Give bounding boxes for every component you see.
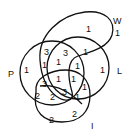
region-value: 3 [44,47,49,57]
set-label-w: W [113,16,122,26]
region-value: 1 [86,24,91,34]
region-value: 1 [75,92,80,102]
region-value: 3 [63,48,68,58]
region-value: 1 [56,57,61,67]
region-value: 2 [49,115,54,125]
set-label-i: I [91,121,94,131]
region-value: 1 [115,28,120,38]
set-label-l: L [117,66,122,76]
region-value: 1 [83,47,88,57]
region-value: 2 [72,109,77,119]
set-label-p: P [8,69,14,79]
region-value: 1 [75,61,80,71]
region-value: 1 [100,65,105,75]
region-value: 1 [56,74,61,84]
region-value: 1 [82,82,87,92]
region-value: 1 [71,74,76,84]
region-value: 2 [35,91,40,101]
region-value: 2 [50,92,55,102]
venn-diagram: P W L I 1 1 3 3 1 1 1 1 1 1 3 1 1 1 2 2 … [0,0,131,139]
region-value: 1 [24,65,29,75]
region-value: 3 [62,87,67,97]
region-value: 3 [42,79,47,89]
region-value: 1 [42,60,47,70]
